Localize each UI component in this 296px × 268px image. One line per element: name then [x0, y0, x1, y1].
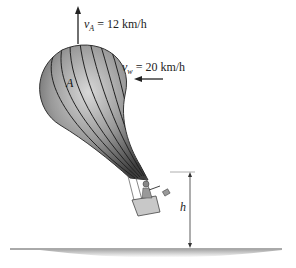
height-label: h: [180, 200, 186, 215]
diagram-graphics: [0, 0, 296, 268]
balloon-velocity-arrow: [75, 6, 81, 44]
figure-canvas: vA = 12 km/h vw = 20 km/h A h: [0, 0, 296, 268]
wind-velocity-label: vw = 20 km/h: [122, 60, 185, 76]
point-a-label: A: [66, 76, 73, 91]
wind-velocity-arrow: [134, 76, 163, 82]
basket: [132, 181, 160, 216]
balloon-velocity-label: vA = 12 km/h: [84, 17, 147, 33]
dropped-object: [162, 189, 170, 196]
ground: [10, 249, 282, 258]
